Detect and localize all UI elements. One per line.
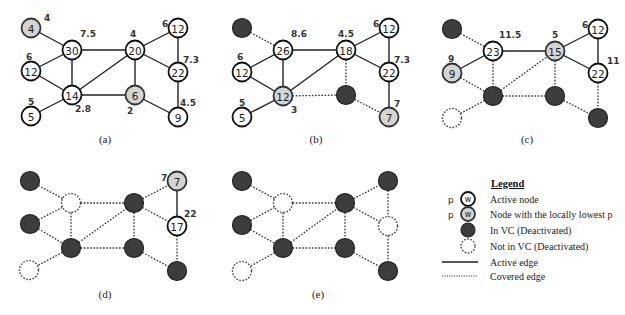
graph-node: 2311.5 (484, 30, 522, 61)
graph-node: 142.8 (63, 86, 91, 115)
legend-item-lowest-node: p w Node with the locally lowest p (448, 207, 612, 221)
notinvc-node-icon (274, 194, 293, 213)
graph-node: 94.5 (169, 98, 196, 127)
graph-node: 77 (380, 99, 401, 127)
invc-node-icon (461, 223, 475, 237)
node-weight: 17 (170, 221, 183, 233)
graph-node (233, 216, 252, 235)
node-price: 2 (127, 106, 133, 116)
graph-node (125, 194, 144, 213)
edges (242, 28, 389, 117)
covered-edge (493, 51, 555, 96)
node-weight: 23 (486, 46, 499, 58)
node-weight: 15 (548, 46, 561, 58)
graph-node (233, 262, 252, 281)
node-weight: 22 (382, 67, 395, 79)
graph-node (168, 262, 187, 281)
node-weight: 18 (339, 45, 352, 57)
node-price: 6 (582, 20, 588, 30)
node-weight: 5 (239, 112, 246, 124)
graph-node (20, 261, 39, 280)
graph-node: 227.3 (380, 55, 410, 82)
invc-node-icon (546, 87, 565, 106)
notinvc-node-icon (379, 217, 398, 236)
node-weight: 7 (174, 176, 181, 188)
node-weight: 12 (24, 66, 37, 78)
legend-p-label: p (448, 210, 454, 220)
node-price: 11.5 (499, 30, 521, 40)
node-price: 11 (607, 56, 620, 66)
panel-e (233, 172, 398, 281)
graph-node: 126 (22, 52, 41, 81)
node-weight: 26 (276, 45, 290, 57)
graph-node: 55 (233, 98, 252, 127)
panel-b: 268.612612355184.5126227.377 (233, 19, 410, 127)
node-price: 6 (26, 52, 32, 62)
edges (452, 29, 598, 118)
graph-node: 99 (443, 54, 462, 83)
covered-edge (71, 203, 134, 248)
node-price: 7 (394, 99, 400, 109)
panel-a: 44307.5126142.855204126227.36294.5 (22, 13, 199, 127)
vertex-cover-figure: 44307.5126142.855204126227.36294.5268.61… (0, 0, 625, 315)
node-weight: 4 (28, 23, 35, 35)
legend-label: Not in VC (Deactivated) (490, 241, 588, 253)
notinvc-node-icon (461, 239, 475, 253)
legend-item-invc-node: In VC (Deactivated) (461, 223, 571, 237)
graph-node: 184.5 (337, 29, 356, 60)
legend-label: Node with the locally lowest p (490, 209, 612, 220)
node-price: 7.3 (183, 55, 199, 65)
node-price: 4.5 (338, 29, 354, 39)
invc-node-icon (443, 20, 462, 39)
node-weight: 12 (382, 23, 395, 35)
node-weight: 12 (276, 91, 289, 103)
invc-node-icon (233, 172, 252, 191)
graph-node (233, 19, 252, 38)
invc-node-icon (274, 239, 293, 258)
graph-node (336, 239, 355, 258)
legend-label: Active edge (490, 257, 539, 268)
graph-node (379, 217, 398, 236)
invc-node-icon (233, 19, 252, 38)
graph-node: 1722 (168, 209, 197, 236)
node-price: 4 (130, 29, 136, 39)
node-price: 8.6 (291, 29, 307, 39)
node-price: 6 (237, 52, 243, 62)
node-weight: 22 (171, 67, 184, 79)
notinvc-node-icon (443, 109, 462, 128)
node-weight: 30 (65, 45, 78, 57)
invc-node-icon (233, 216, 252, 235)
legend-p-label: p (448, 195, 454, 205)
graph-node: 2211 (589, 56, 620, 83)
graph-node (589, 109, 608, 128)
node-price: 3 (291, 105, 297, 115)
legend-label: Covered edge (490, 271, 546, 282)
edges (31, 28, 178, 117)
graph-node: 123 (274, 87, 298, 116)
invc-node-icon (336, 194, 355, 213)
graph-node: 268.6 (274, 29, 307, 60)
graph-node: 77 (161, 172, 187, 191)
node-weight: 9 (175, 112, 182, 124)
notinvc-node-icon (62, 194, 81, 213)
node-price: 4.5 (180, 98, 196, 108)
graph-node (21, 215, 40, 234)
node-price: 9 (448, 54, 454, 64)
invc-node-icon (336, 239, 355, 258)
graph-node (546, 87, 565, 106)
node-price: 7 (161, 173, 167, 183)
legend-w-label: w (465, 210, 472, 219)
caption-b: (b) (310, 133, 323, 146)
caption-a: (a) (99, 133, 112, 146)
graph-node: 62 (126, 86, 145, 117)
graph-node (443, 109, 462, 128)
node-weight: 9 (449, 68, 456, 80)
edges (242, 181, 388, 271)
caption-c: (c) (521, 133, 534, 146)
graph-node (62, 239, 81, 258)
legend-item-active-node: p w Active node (448, 192, 539, 206)
invc-node-icon (337, 86, 356, 105)
graph-node (484, 87, 503, 106)
graph-node (337, 86, 356, 105)
node-weight: 6 (132, 90, 139, 102)
